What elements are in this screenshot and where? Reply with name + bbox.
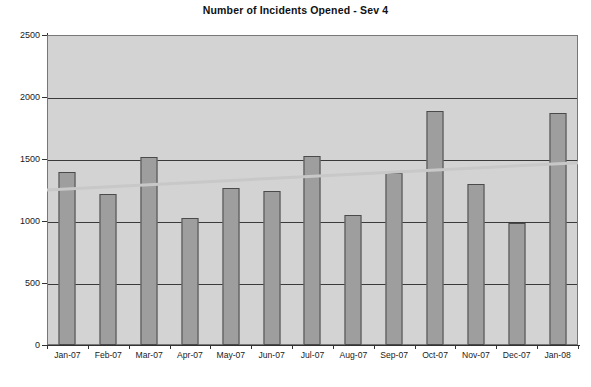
x-tick-mark (47, 345, 48, 349)
x-tick-mark (292, 345, 293, 349)
x-tick-label: Apr-07 (177, 350, 203, 360)
x-tick-mark (251, 345, 252, 349)
x-tick-label: Jan-07 (54, 350, 80, 360)
x-tick-label: Nov-07 (462, 350, 490, 360)
x-tick-label: Aug-07 (339, 350, 367, 360)
y-tick-label: 0 (6, 340, 40, 350)
x-tick-label: Sep-07 (380, 350, 408, 360)
x-axis: Jan-07Feb-07Mar-07Apr-07May-07Jun-07Jul-… (47, 350, 578, 374)
x-tick-mark (210, 345, 211, 349)
x-tick-label: Feb-07 (95, 350, 122, 360)
x-tick-label: Oct-07 (422, 350, 448, 360)
chart-container: Number of Incidents Opened - Sev 4 05001… (0, 0, 591, 387)
x-tick-mark (88, 345, 89, 349)
x-tick-mark (496, 345, 497, 349)
x-tick-label: Jul-07 (301, 350, 324, 360)
y-tick-label: 1500 (6, 154, 40, 164)
x-tick-mark (333, 345, 334, 349)
x-tick-mark (578, 345, 579, 349)
x-tick-label: Jan-08 (544, 350, 570, 360)
x-tick-mark (415, 345, 416, 349)
x-tick-label: Dec-07 (503, 350, 531, 360)
y-tick-label: 2000 (6, 92, 40, 102)
x-tick-mark (455, 345, 456, 349)
x-tick-mark (170, 345, 171, 349)
y-tick-label: 500 (6, 278, 40, 288)
x-tick-label: Jun-07 (259, 350, 285, 360)
trendline-path (47, 163, 578, 190)
y-tick-label: 2500 (6, 30, 40, 40)
x-tick-label: Mar-07 (135, 350, 162, 360)
y-tick-label: 1000 (6, 216, 40, 226)
x-tick-mark (537, 345, 538, 349)
x-axis-line (45, 345, 580, 346)
x-tick-mark (374, 345, 375, 349)
x-tick-label: May-07 (216, 350, 245, 360)
x-tick-mark (129, 345, 130, 349)
trendline (47, 35, 578, 345)
